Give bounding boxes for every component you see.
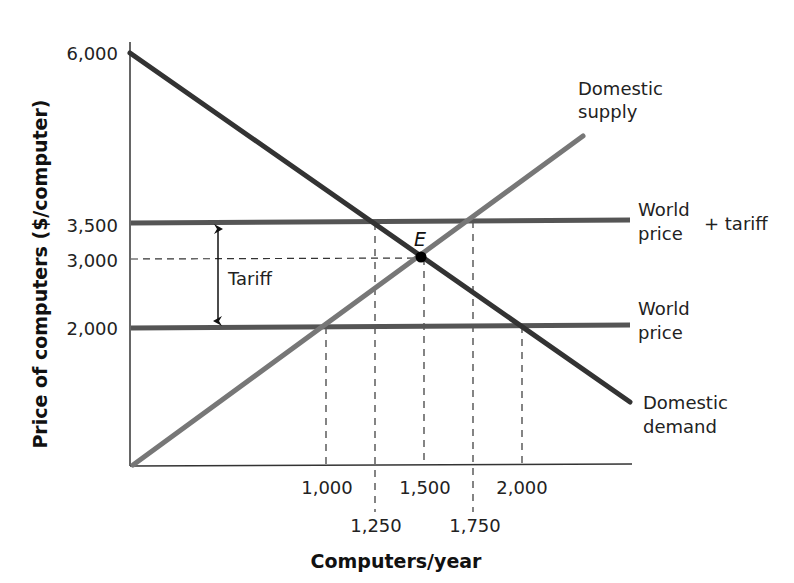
equilibrium-point <box>416 252 427 263</box>
y-tick-6000: 6,000 <box>66 43 118 64</box>
world-price-label-line2: price <box>638 322 683 343</box>
x-tick-1250: 1,250 <box>350 515 402 536</box>
tariff-label: Tariff <box>227 268 272 289</box>
x-tick-1500: 1,500 <box>399 477 451 498</box>
supply-label-line1: Domestic <box>578 78 663 99</box>
x-axis-title: Computers/year <box>311 550 483 572</box>
world-tariff-label-line2: price <box>638 223 683 244</box>
x-tick-1750: 1,750 <box>449 515 501 536</box>
tariff-chart: E 6,000 3,500 3,000 2,000 1,000 1,500 2,… <box>0 0 794 583</box>
x-tick-1000: 1,000 <box>301 477 353 498</box>
x-axis <box>130 464 632 466</box>
equilibrium-label: E <box>414 228 426 250</box>
world-price-plus-tariff-line <box>131 220 630 223</box>
dashed-3000-line <box>131 258 421 259</box>
y-axis-title: Price of computers ($/computer) <box>29 99 51 448</box>
y-tick-2000: 2,000 <box>66 318 118 339</box>
y-tick-3500: 3,500 <box>66 215 118 236</box>
demand-label-line2: demand <box>643 416 717 437</box>
world-price-label-line1: World <box>638 298 690 319</box>
y-tick-3000: 3,000 <box>66 250 118 271</box>
x-tick-2000: 2,000 <box>496 477 548 498</box>
world-price-line <box>131 325 630 328</box>
demand-label-line1: Domestic <box>643 392 728 413</box>
world-tariff-label-extra: + tariff <box>704 213 768 234</box>
supply-label-line2: supply <box>578 101 638 122</box>
world-tariff-label-line1: World <box>638 199 690 220</box>
domestic-demand-line <box>130 53 630 402</box>
domestic-supply-line <box>133 136 583 465</box>
